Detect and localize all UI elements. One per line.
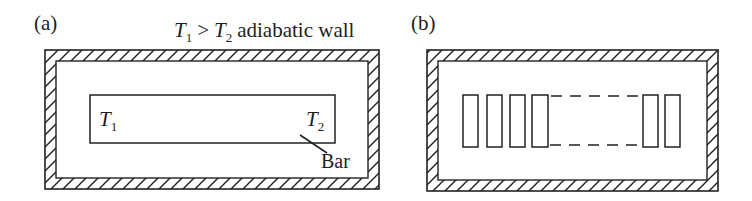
figure-b-drawing — [427, 50, 718, 191]
title-relation: > — [197, 18, 209, 42]
temp-right-symbol: T — [306, 107, 318, 131]
bar-segment — [510, 95, 525, 147]
title-t2-subscript: 2 — [226, 30, 233, 45]
bar-segment — [665, 95, 680, 147]
temp-left-symbol: T — [99, 107, 111, 131]
title-t1-subscript: 1 — [186, 30, 193, 45]
bar-segment — [487, 95, 502, 147]
bar-segment — [532, 95, 548, 147]
title-t2-symbol: T — [214, 18, 226, 42]
diagram-svg — [0, 0, 752, 201]
bar-temp-left: T1 — [99, 108, 117, 131]
bar-caption: Bar — [321, 150, 350, 172]
title-suffix: adiabatic wall — [237, 18, 354, 42]
bar-segment — [643, 95, 658, 147]
temp-left-subscript: 1 — [111, 119, 118, 134]
title-t1-symbol: T — [174, 18, 186, 42]
figure-a-label: (a) — [34, 12, 57, 35]
bar-temp-right: T2 — [306, 108, 324, 131]
bar-rect — [90, 95, 335, 143]
bar-segment — [463, 95, 478, 147]
figure-a-title: T1>T2adiabatic wall — [174, 19, 354, 42]
diagram-canvas: (a) T1>T2adiabatic wall T1 T2 Bar (b) — [0, 0, 752, 201]
temp-right-subscript: 2 — [318, 119, 325, 134]
figure-b-label: (b) — [411, 12, 436, 35]
